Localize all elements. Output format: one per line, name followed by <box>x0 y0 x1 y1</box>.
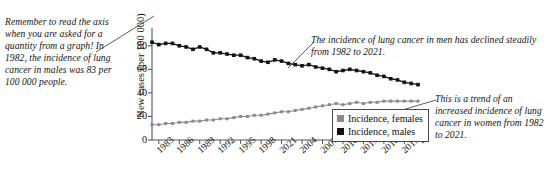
x-tick-label: 1986 <box>174 134 196 155</box>
chart: New cases (per 100 000) 020406080 198319… <box>120 22 426 147</box>
x-tick-label: 2004 <box>297 134 319 155</box>
legend-swatch-icon <box>337 115 344 122</box>
legend-swatch-icon <box>337 128 344 135</box>
x-tick-label: 1998 <box>256 134 278 155</box>
x-tick-label: 1989 <box>195 134 217 155</box>
x-tick-label: 1995 <box>236 134 258 155</box>
legend-item[interactable]: Incidence, females <box>337 112 423 125</box>
legend-item-label: Incidence, females <box>348 113 423 124</box>
legend-item-label: Incidence, males <box>348 126 415 137</box>
chart-legend: Incidence, femalesIncidence, males <box>332 109 429 142</box>
legend-item[interactable]: Incidence, males <box>337 125 423 138</box>
x-tick-label: 1992 <box>215 134 237 155</box>
figure-container: Remember to read the axis when you are a… <box>0 0 551 185</box>
x-tick-label: 1983 <box>154 134 176 155</box>
x-tick-label: 2021 <box>277 134 299 155</box>
annotation-women-note: This is a trend of an increased incidenc… <box>435 93 547 141</box>
